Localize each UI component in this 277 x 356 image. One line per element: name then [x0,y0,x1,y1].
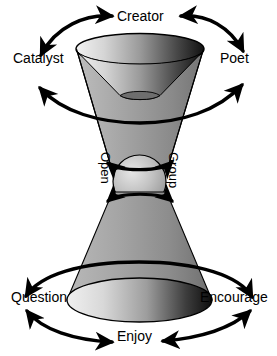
label-open: Open [99,152,112,184]
upper-cone [76,34,204,173]
label-enjoy: Enjoy [117,329,152,343]
label-creator: Creator [117,9,164,23]
label-catalyst: Catalyst [13,51,64,65]
label-encourage: Encourage [200,290,268,304]
label-group: Group [167,152,180,188]
hourglass-diagram: Creator Catalyst Poet Open Group Questio… [0,0,277,356]
lower-cone-base [67,278,212,322]
upper-cone-inner-lip [120,91,160,99]
label-question: Question [11,290,67,304]
label-poet: Poet [220,51,249,65]
lower-cone [67,192,212,322]
